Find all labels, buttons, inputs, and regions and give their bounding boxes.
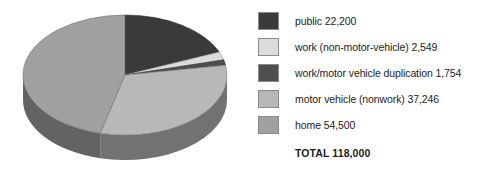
legend-total-row: TOTAL 118,000 (256, 140, 488, 166)
legend-rows: public 22,200work (non-motor-vehicle) 2,… (256, 8, 488, 138)
legend-swatch (258, 90, 279, 108)
legend-item: motor vehicle (nonwork) 37,246 (256, 86, 488, 112)
pie-chart-area (0, 0, 250, 170)
chart-legend: public 22,200work (non-motor-vehicle) 2,… (256, 0, 488, 170)
legend-swatch (258, 116, 279, 134)
pie-chart-3d (0, 0, 250, 170)
legend-item-label: work (non-motor-vehicle) 2,549 (295, 41, 437, 53)
legend-item-label: motor vehicle (nonwork) 37,246 (295, 93, 439, 105)
legend-swatch (258, 38, 279, 56)
legend-total-spacer (258, 144, 279, 162)
legend-item-label: public 22,200 (295, 15, 356, 27)
legend-swatch (258, 64, 279, 82)
legend-item-label: home 54,500 (295, 119, 355, 131)
legend-item: public 22,200 (256, 8, 488, 34)
legend-swatch (258, 12, 279, 30)
legend-total-label: TOTAL 118,000 (295, 147, 370, 159)
legend-item-label: work/motor vehicle duplication 1,754 (295, 67, 461, 79)
pie-top-surface (23, 15, 227, 135)
legend-item: work/motor vehicle duplication 1,754 (256, 60, 488, 86)
legend-item: work (non-motor-vehicle) 2,549 (256, 34, 488, 60)
legend-item: home 54,500 (256, 112, 488, 138)
